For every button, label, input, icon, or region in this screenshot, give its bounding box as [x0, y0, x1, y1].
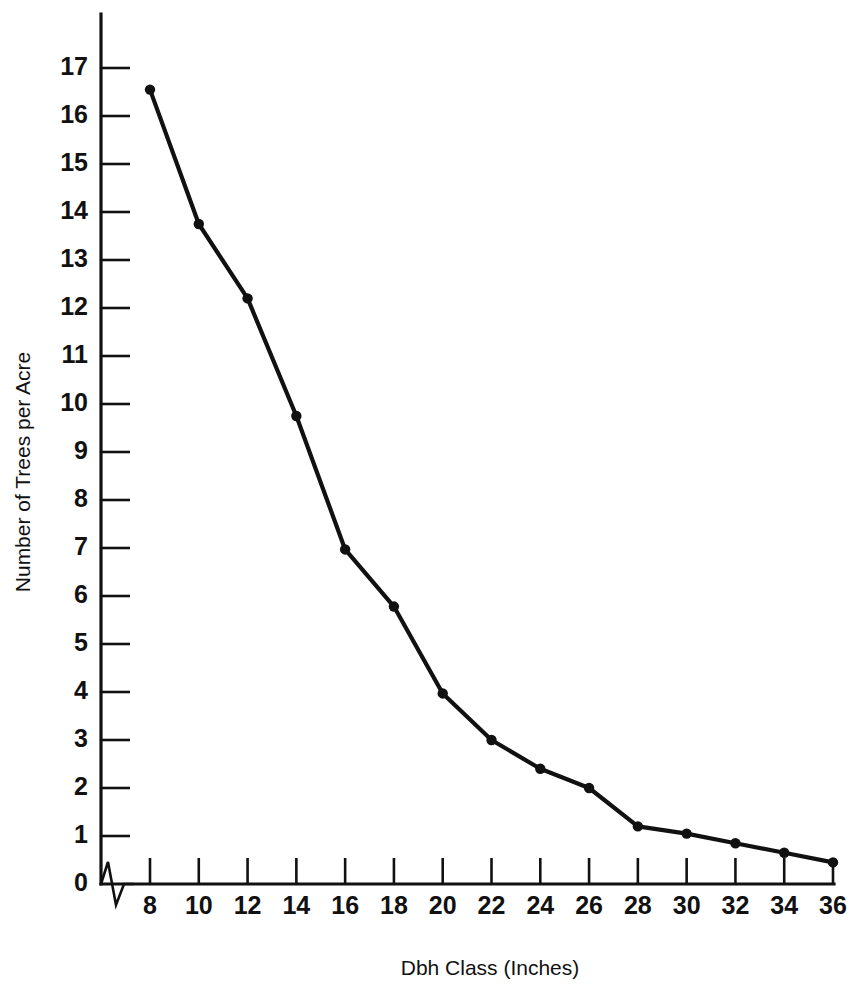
data-point [438, 688, 448, 698]
data-point [584, 783, 594, 793]
data-point [730, 838, 740, 848]
x-axis-tick-label: 36 [819, 891, 847, 919]
data-point [340, 544, 350, 554]
y-axis-tick-label: 12 [60, 292, 88, 320]
x-axis-tick-label: 26 [575, 891, 603, 919]
y-axis-tick-label: 6 [74, 580, 88, 608]
y-axis-tick-label: 8 [74, 484, 88, 512]
data-point [828, 857, 838, 867]
y-axis-tick-label: 15 [60, 148, 88, 176]
x-axis-tick-label: 18 [380, 891, 408, 919]
data-point [242, 293, 252, 303]
x-axis-ticks [150, 858, 833, 884]
y-axis-title: Number of Trees per Acre [11, 352, 34, 592]
x-axis-tick-label: 8 [143, 891, 157, 919]
data-point-markers [145, 84, 838, 867]
chart-axes [101, 14, 834, 905]
data-point [194, 219, 204, 229]
y-axis-tick-label: 11 [62, 340, 89, 368]
data-point [535, 764, 545, 774]
data-point [633, 821, 643, 831]
y-axis-tick-label: 14 [60, 196, 88, 224]
y-axis-tick-label: 7 [74, 532, 88, 560]
data-point [681, 828, 691, 838]
y-axis-tick-label: 5 [74, 628, 88, 656]
data-point [779, 848, 789, 858]
data-point [389, 601, 399, 611]
y-axis-tick-label: 10 [60, 388, 88, 416]
x-axis-tick-labels: 81012141618202224262830323436 [143, 891, 847, 919]
x-axis-tick-label: 24 [526, 891, 554, 919]
data-series-line [150, 90, 833, 863]
y-axis-tick-label: 4 [74, 676, 88, 704]
x-axis-tick-label: 34 [770, 891, 798, 919]
y-axis-tick-label: 13 [60, 244, 88, 272]
y-axis-ticks [101, 68, 130, 836]
y-axis-tick-label: 17 [60, 52, 88, 80]
data-point [291, 411, 301, 421]
y-axis-tick-label: 16 [60, 100, 88, 128]
y-axis-tick-label: 9 [74, 436, 88, 464]
x-axis-tick-label: 10 [185, 891, 213, 919]
x-axis-tick-label: 12 [234, 891, 262, 919]
x-axis-tick-label: 14 [282, 891, 310, 919]
x-axis-tick-label: 28 [624, 891, 652, 919]
x-axis-tick-label: 22 [478, 891, 506, 919]
chart-figure: 01234567891011121314151617 8101214161820… [0, 0, 852, 995]
x-axis-tick-label: 30 [673, 891, 701, 919]
x-axis-tick-label: 16 [331, 891, 359, 919]
y-axis-tick-label: 0 [74, 868, 88, 896]
y-axis-tick-label: 1 [74, 820, 88, 848]
x-axis-tick-label: 32 [722, 891, 750, 919]
y-axis-tick-labels: 01234567891011121314151617 [60, 52, 88, 896]
data-point [486, 735, 496, 745]
y-axis-tick-label: 2 [74, 772, 88, 800]
x-axis-title: Dbh Class (Inches) [401, 956, 580, 979]
y-axis-tick-label: 3 [74, 724, 88, 752]
line-chart: 01234567891011121314151617 8101214161820… [0, 0, 852, 995]
data-point [145, 84, 155, 94]
x-axis-tick-label: 20 [429, 891, 457, 919]
